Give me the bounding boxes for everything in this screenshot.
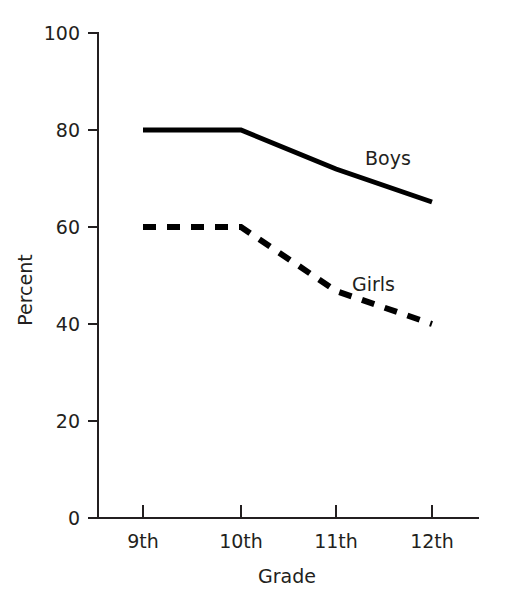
y-tick-label-0: 0	[68, 507, 80, 529]
x-axis-title: Grade	[258, 565, 316, 587]
line-chart-figure: 0 20 40 60 80 100 9th 10th 11th 12th Gra…	[0, 0, 507, 602]
series-annotation-boys: Boys	[365, 147, 411, 169]
x-tick-label-11th: 11th	[314, 530, 358, 552]
y-tick-label-20: 20	[56, 410, 80, 432]
chart-canvas: 0 20 40 60 80 100 9th 10th 11th 12th Gra…	[0, 0, 507, 602]
y-tick-label-100: 100	[44, 22, 80, 44]
y-axis-title: Percent	[14, 254, 36, 326]
axis-spine	[98, 33, 478, 518]
x-tick-label-10th: 10th	[219, 530, 263, 552]
y-tick-label-80: 80	[56, 119, 80, 141]
y-tick-label-60: 60	[56, 216, 80, 238]
y-tick-label-40: 40	[56, 313, 80, 335]
x-tick-label-12th: 12th	[410, 530, 454, 552]
x-tick-label-9th: 9th	[127, 530, 159, 552]
series-annotation-girls: Girls	[352, 273, 395, 295]
